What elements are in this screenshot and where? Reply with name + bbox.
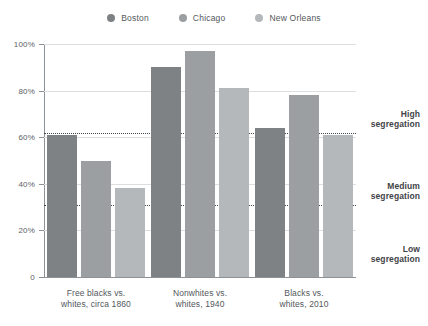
legend-item-chicago[interactable]: Chicago xyxy=(179,13,226,23)
bar-boston[interactable] xyxy=(151,67,181,277)
legend-swatch-icon xyxy=(255,14,263,22)
segregation-annotation: Lowsegregation xyxy=(371,244,420,264)
y-axis-tick-label: 40% xyxy=(18,179,35,188)
bar-boston[interactable] xyxy=(255,128,285,277)
legend-swatch-icon xyxy=(107,14,115,22)
bar-new-orleans[interactable] xyxy=(323,135,353,277)
legend-item-new-orleans[interactable]: New Orleans xyxy=(255,13,320,23)
legend-item-label: New Orleans xyxy=(269,13,320,23)
segregation-annotation-line1: Low xyxy=(371,244,420,254)
legend-item-label: Chicago xyxy=(193,13,226,23)
bar-new-orleans[interactable] xyxy=(219,88,249,277)
y-axis-tick xyxy=(39,230,44,231)
bar-new-orleans[interactable] xyxy=(115,188,145,277)
y-axis-tick xyxy=(39,44,44,45)
segregation-annotation-line2: segregation xyxy=(371,254,420,264)
y-axis-tick-label: 80% xyxy=(18,86,35,95)
bar-boston[interactable] xyxy=(47,135,77,277)
legend-item-label: Boston xyxy=(121,13,149,23)
y-axis-tick-label: 100% xyxy=(14,40,35,49)
bar-group xyxy=(47,44,145,277)
chart-legend: BostonChicagoNew Orleans xyxy=(0,13,428,23)
legend-swatch-icon xyxy=(179,14,187,22)
bar-chicago[interactable] xyxy=(81,161,111,278)
x-axis-line xyxy=(44,277,356,278)
segregation-annotation: Mediumsegregation xyxy=(371,181,420,201)
segregation-annotation-line2: segregation xyxy=(371,119,420,129)
y-axis-tick xyxy=(39,277,44,278)
bar-chicago[interactable] xyxy=(185,51,215,277)
y-axis-tick-label: 0 xyxy=(30,273,35,282)
plot-area: 020%40%60%80%100% xyxy=(44,44,356,277)
y-axis-tick xyxy=(39,91,44,92)
segregation-annotation-line2: segregation xyxy=(371,191,420,201)
y-axis-tick xyxy=(39,184,44,185)
segregation-bar-chart: BostonChicagoNew Orleans 020%40%60%80%10… xyxy=(0,0,428,326)
y-axis-tick-label: 60% xyxy=(18,133,35,142)
bar-group xyxy=(151,44,249,277)
segregation-annotation-line1: High xyxy=(371,109,420,119)
segregation-annotation-line1: Medium xyxy=(371,181,420,191)
x-axis-category-label-line2: whites, 2010 xyxy=(233,299,375,310)
segregation-annotation: Highsegregation xyxy=(371,109,420,129)
legend-item-boston[interactable]: Boston xyxy=(107,13,149,23)
y-axis-tick xyxy=(39,137,44,138)
bar-chicago[interactable] xyxy=(289,95,319,277)
y-axis-tick-label: 20% xyxy=(18,226,35,235)
x-axis-category-label-line1: Blacks vs. xyxy=(233,288,375,299)
bar-group xyxy=(255,44,353,277)
x-axis-category-label: Blacks vs.whites, 2010 xyxy=(233,288,375,310)
